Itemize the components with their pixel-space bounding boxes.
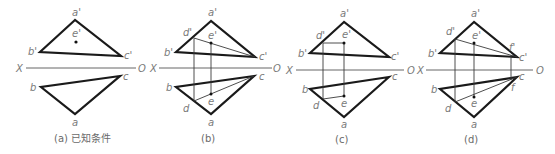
axis-label-o: O: [536, 65, 544, 76]
point-e-prime: [473, 42, 476, 45]
label-a-prime: a': [471, 8, 480, 19]
panel-a: X O a' e' b' c' c b a (a) 已知条件: [15, 7, 146, 144]
label-c-prime: c': [124, 50, 132, 61]
label-e: e: [471, 98, 477, 109]
label-f-prime: f': [509, 42, 515, 53]
top-view-triangle: [41, 76, 120, 114]
label-f: f: [511, 82, 516, 93]
label-d: d: [183, 103, 190, 114]
label-e-prime: e': [342, 29, 351, 40]
label-a: a: [471, 119, 477, 130]
label-a: a: [208, 117, 214, 128]
label-d-prime: d': [183, 27, 192, 38]
label-c: c: [392, 71, 398, 82]
panel-d: X O a' d' e' f' b' c' c f b e d a (d): [416, 8, 544, 145]
caption-c: (c): [335, 134, 348, 145]
label-b: b: [302, 84, 308, 95]
label-c: c: [259, 71, 265, 82]
caption-a: (a) 已知条件: [54, 132, 111, 144]
axis-label-x: X: [149, 63, 158, 74]
label-c-prime: c': [259, 51, 267, 62]
top-view-triangle: [440, 77, 517, 117]
label-a-prime: a': [72, 7, 81, 18]
axis-label-o: O: [138, 63, 146, 74]
label-b: b: [431, 84, 437, 95]
label-e-prime: e': [472, 30, 481, 41]
caption-b: (b): [201, 133, 215, 144]
point-e-prime: [343, 42, 346, 45]
label-d-prime: d': [446, 26, 455, 37]
label-d: d: [313, 100, 320, 111]
label-b-prime: b': [428, 48, 437, 59]
panel-c: X O a' d' e' b' c' c b e d a (c): [285, 8, 415, 145]
label-b-prime: b': [164, 47, 173, 58]
label-d: d: [445, 103, 452, 114]
top-view-triangle: [310, 77, 389, 117]
label-a-prime: a': [208, 7, 217, 18]
label-d-prime: d': [316, 30, 325, 41]
label-e-prime: e': [72, 28, 81, 39]
label-a: a: [341, 119, 347, 130]
label-c-prime: c': [519, 52, 527, 63]
label-c: c: [123, 71, 129, 82]
label-b-prime: b': [28, 46, 37, 57]
label-e: e: [341, 98, 347, 109]
projection-figure: X O a' e' b' c' c b a (a) 已知条件 X O a' d'…: [0, 0, 555, 154]
label-b-prime: b': [298, 48, 307, 59]
label-b: b: [166, 82, 172, 93]
label-b: b: [30, 82, 36, 93]
axis-label-x: X: [416, 65, 425, 76]
panel-b: X O a' d' e' b' c' c b e d a (b): [149, 7, 281, 144]
axis-label-x: X: [15, 63, 24, 74]
caption-d: (d): [464, 134, 478, 145]
label-e-prime: e': [208, 30, 217, 41]
label-c-prime: c': [391, 51, 399, 62]
point-e-prime: [74, 40, 77, 43]
label-a-prime: a': [340, 8, 349, 19]
axis-label-x: X: [285, 65, 294, 76]
label-e: e: [208, 96, 214, 107]
label-c: c: [519, 71, 525, 82]
label-a: a: [72, 117, 78, 128]
axis-label-o: O: [407, 65, 415, 76]
axis-label-o: O: [273, 63, 281, 74]
point-e-prime: [210, 42, 213, 45]
